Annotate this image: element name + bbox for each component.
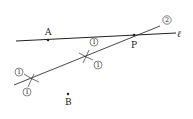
point-p-label: P	[131, 40, 137, 50]
svg-text:1: 1	[17, 68, 21, 76]
svg-text:1: 1	[25, 88, 29, 96]
step-marker-2: 2	[163, 16, 171, 24]
step-marker-1d: 1	[94, 61, 102, 69]
step-marker-1b: 1	[23, 88, 31, 96]
step-marker-1c: 1	[90, 38, 98, 46]
construction-line	[14, 26, 160, 85]
point-p	[133, 34, 136, 37]
geometry-diagram: ℓ A P B 1 1 1 1 2	[0, 0, 193, 119]
arc-crossing-upper	[79, 50, 93, 63]
line-l-label: ℓ	[177, 29, 181, 39]
svg-text:2: 2	[165, 16, 169, 24]
svg-text:1: 1	[96, 61, 100, 69]
point-a-label: A	[44, 27, 52, 37]
point-b-label: B	[65, 97, 72, 107]
svg-text:1: 1	[92, 38, 96, 46]
step-marker-1a: 1	[15, 68, 23, 76]
point-a	[47, 39, 50, 42]
point-b	[67, 93, 69, 95]
